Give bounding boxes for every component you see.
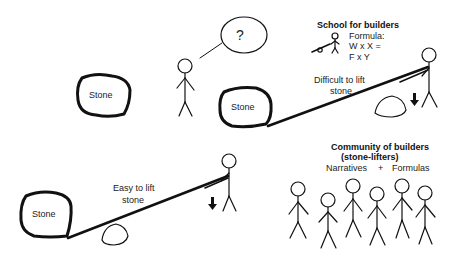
caption-difficult-line2: stone [330,86,352,96]
stick-figure-top-right [422,48,437,107]
caption-easy-line2: stone [122,195,144,205]
mini-seesaw-icon [312,33,339,53]
stone-label-bottom-left: Stone [32,209,56,219]
community-member [344,179,362,237]
community-member [319,193,337,248]
stick-figure-bottom-left [221,154,236,211]
community-title-line2: (stone-lifters) [341,152,399,162]
stick-figure-thinker [177,59,194,116]
school-formula-label: Formula: [349,31,385,41]
school-title: School for builders [317,20,399,30]
community-member [416,186,435,244]
caption-difficult-line1: Difficult to lift [314,75,365,85]
school-formula-line2: F x Y [349,52,370,62]
community-formulas: Formulas [392,163,430,173]
fulcrum-bottom-left-icon [102,224,128,245]
stone-label-top-right: Stone [231,102,255,112]
community-figures [289,179,435,248]
thought-question-mark: ? [236,27,244,43]
thought-bubble-icon [200,17,267,58]
school-formula-line1: W x X = [349,41,381,51]
down-arrow-top-right-icon [410,93,419,106]
community-member [289,182,308,238]
community-title-line1: Community of builders [331,142,429,152]
community-narratives: Narratives [326,163,367,173]
fulcrum-top-right-icon [375,96,406,117]
community-member [393,179,412,238]
stone-label-top-left: Stone [89,90,113,100]
down-arrow-bottom-left-icon [208,197,217,210]
community-member [368,187,386,245]
caption-easy-line1: Easy to lift [113,183,155,193]
community-plus: + [378,163,383,173]
